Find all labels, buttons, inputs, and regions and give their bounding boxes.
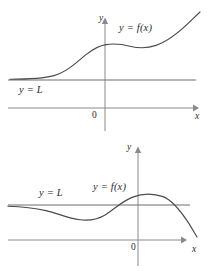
top-graph-svg — [0, 0, 211, 135]
function-curve-bottom — [8, 194, 197, 237]
y-axis-label-bottom: y — [127, 143, 131, 153]
x-axis-arrow-bottom — [181, 237, 187, 244]
asymptote-label-top: y = L — [19, 85, 43, 96]
y-axis-label-top: y — [99, 14, 103, 24]
bottom-graph-svg — [0, 135, 211, 271]
origin-label-bottom: 0 — [131, 243, 136, 253]
x-axis-label-bottom: x — [192, 245, 196, 255]
asymptote-label-bottom: y = L — [39, 188, 63, 199]
function-label-bottom: y = f(x) — [93, 182, 126, 193]
graph-panel-bottom — [0, 135, 211, 271]
y-axis-arrow-bottom — [135, 147, 141, 154]
origin-label-top: 0 — [92, 111, 97, 121]
graph-panel-top — [0, 0, 211, 135]
figure-horizontal-asymptotes: y y = f(x) y = L 0 x y y = f(x) y = L 0 … — [0, 0, 211, 271]
x-axis-label-top: x — [195, 112, 199, 122]
function-label-top: y = f(x) — [119, 23, 152, 34]
